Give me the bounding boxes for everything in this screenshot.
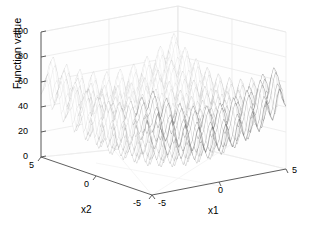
z-axis-title: Function value	[12, 15, 23, 93]
surface-plot-graphic	[0, 0, 310, 230]
x2-axis-line	[41, 157, 152, 195]
x1-tick-label-neg5: -5	[158, 199, 166, 208]
z-tick-label-40: 40	[2, 102, 28, 111]
x1-tick-label-0: 0	[218, 186, 223, 195]
z-tick-label-20: 20	[2, 127, 28, 136]
x2-tick-label-5: 5	[29, 161, 34, 170]
x2-axis-title: x2	[81, 205, 92, 215]
x2-tick-label-neg5: -5	[133, 199, 141, 208]
z-tick-label-0: 0	[2, 152, 28, 161]
x2-tick-label-0: 0	[84, 180, 89, 189]
figure-canvas: 100 80 60 40 20 0 5 0 -5 -5 0 5 Function…	[0, 0, 310, 230]
x1-axis-title: x1	[208, 206, 219, 216]
x1-tick-label-5: 5	[292, 166, 297, 175]
